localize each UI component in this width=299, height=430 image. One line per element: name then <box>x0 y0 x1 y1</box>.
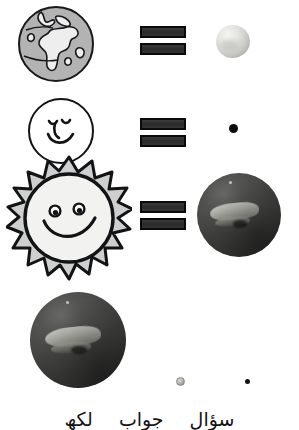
equals-bar-bottom <box>140 135 186 147</box>
earth-icon <box>18 6 94 82</box>
equals-bar-bottom <box>140 218 186 230</box>
tiny-black-dot-bottom <box>245 379 250 384</box>
sun-with-face <box>6 155 132 281</box>
caption-segment-2: جواب <box>119 410 164 429</box>
dark-sphere-icon <box>30 292 126 388</box>
equals-bar-top <box>140 201 186 213</box>
equals-bar-top <box>140 26 186 38</box>
dark-sphere-icon <box>197 173 281 257</box>
moon-sphere-icon <box>216 25 250 58</box>
equals-sign-row-3 <box>140 201 186 230</box>
dot-icon <box>229 124 238 133</box>
equals-bar-bottom <box>140 43 186 55</box>
earth-continents-icon <box>20 8 92 80</box>
dot-icon <box>245 379 250 384</box>
equals-sign-row-2 <box>140 118 186 147</box>
sphere-shading <box>30 292 126 388</box>
sun-icon <box>6 155 132 281</box>
gray-dot-icon <box>176 377 185 386</box>
equals-bar-top <box>140 118 186 130</box>
equals-sign-row-1 <box>140 26 186 55</box>
sphere-shading <box>197 173 281 257</box>
earth-globe <box>18 6 94 82</box>
caption-segment-1: سؤال <box>190 410 235 429</box>
small-gray-circle-bottom <box>176 377 185 386</box>
large-dark-sphere-bottom <box>30 292 126 388</box>
large-dark-sphere-row-3 <box>197 173 281 257</box>
face-features-icon <box>30 100 92 162</box>
caption-script: سؤال جواب لکھ <box>0 410 299 429</box>
tiny-black-dot-row-2 <box>229 124 238 133</box>
sun-rays-icon <box>6 155 132 281</box>
small-white-sphere-row-1 <box>216 25 250 58</box>
caption-segment-3: لکھ <box>65 410 93 429</box>
